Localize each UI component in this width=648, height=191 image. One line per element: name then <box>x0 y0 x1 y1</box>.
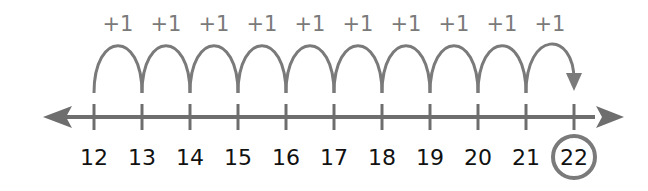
arrowhead-down-icon <box>566 73 582 91</box>
jump-arc <box>430 46 478 93</box>
jump-label: +1 <box>535 12 566 36</box>
tick-label: 15 <box>224 145 252 170</box>
tick-label: 12 <box>80 145 108 170</box>
tick-label: 20 <box>464 145 492 170</box>
jump-arc <box>478 46 526 93</box>
jump-arc <box>526 44 574 93</box>
jump-arc <box>142 46 190 93</box>
jump-label: +1 <box>199 12 230 36</box>
jump-label: +1 <box>487 12 518 36</box>
tick-label: 21 <box>512 145 540 170</box>
jump-label: +1 <box>247 12 278 36</box>
jump-label: +1 <box>439 12 470 36</box>
jump-label: +1 <box>391 12 422 36</box>
jump-label: +1 <box>151 12 182 36</box>
tick-label: 14 <box>176 145 204 170</box>
jump-arc <box>382 46 430 93</box>
jump-label: +1 <box>103 12 134 36</box>
jump-arc <box>94 46 142 93</box>
tick-label: 19 <box>416 145 444 170</box>
number-line-diagram: +1+1+1+1+1+1+1+1+1+1 1213141516171819202… <box>0 0 648 191</box>
jump-labels: +1+1+1+1+1+1+1+1+1+1 <box>103 12 566 36</box>
jump-arc <box>286 46 334 93</box>
tick-label: 17 <box>320 145 348 170</box>
tick-label: 13 <box>128 145 156 170</box>
jump-arc <box>238 46 286 93</box>
jump-arc <box>334 46 382 93</box>
tick-label: 18 <box>368 145 396 170</box>
jump-arc <box>190 46 238 93</box>
tick-label: 16 <box>272 145 300 170</box>
jump-label: +1 <box>343 12 374 36</box>
jump-label: +1 <box>295 12 326 36</box>
right-arrow-icon <box>596 106 624 128</box>
tick-labels: 1213141516171819202122 <box>80 145 588 170</box>
tick-label: 22 <box>560 145 588 170</box>
jump-arcs <box>94 44 582 93</box>
